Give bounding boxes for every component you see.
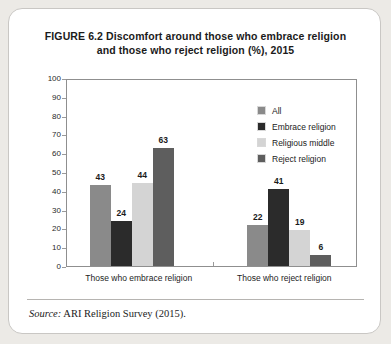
y-axis-tick-label: 50: [35, 169, 61, 177]
bar: [289, 230, 310, 266]
y-axis-tick-label: 10: [35, 244, 61, 252]
source-label: Source:: [29, 308, 61, 319]
source-note: Source: ARI Religion Survey (2015).: [29, 307, 186, 320]
y-axis-tick-label: 40: [35, 188, 61, 196]
figure-card: FIGURE 6.2 Discomfort around those who e…: [8, 8, 381, 334]
source-divider: [27, 299, 364, 300]
legend-item[interactable]: Embrace religion: [257, 119, 377, 134]
bar-value-label: 22: [247, 213, 268, 222]
x-axis-category-label: Those who embrace religion: [66, 273, 212, 283]
source-text: ARI Religion Survey (2015).: [61, 308, 186, 319]
y-axis-tick-label: 0: [35, 263, 61, 271]
figure-title-line-1: FIGURE 6.2 Discomfort around those who e…: [29, 29, 362, 43]
bar: [153, 148, 174, 266]
bar-value-label: 63: [153, 136, 174, 145]
y-axis-tick-label: 60: [35, 150, 61, 158]
legend-label: Reject religion: [272, 154, 326, 164]
bar: [132, 183, 153, 266]
bar: [310, 255, 331, 266]
y-axis-tick-label: 100: [35, 75, 61, 83]
y-axis-tick-mark: [62, 267, 66, 268]
y-axis-tick-label: 20: [35, 225, 61, 233]
legend-item[interactable]: Religious middle: [257, 135, 377, 150]
legend-swatch-icon: [257, 106, 266, 115]
figure-title: FIGURE 6.2 Discomfort around those who e…: [29, 29, 362, 57]
chart-legend: AllEmbrace religionReligious middleRejec…: [257, 103, 377, 167]
legend-item[interactable]: Reject religion: [257, 151, 377, 166]
x-axis-category-labels: Those who embrace religionThose who reje…: [66, 273, 357, 289]
bar: [90, 185, 111, 266]
legend-swatch-icon: [257, 138, 266, 147]
legend-item[interactable]: All: [257, 103, 377, 118]
bar-value-label: 6: [310, 243, 331, 252]
x-axis-category-label: Those who reject religion: [212, 273, 358, 283]
bar: [268, 189, 289, 266]
bar-value-label: 43: [90, 173, 111, 182]
y-axis-tick-labels: 0102030405060708090100: [35, 79, 61, 267]
y-axis-tick-label: 80: [35, 113, 61, 121]
figure-title-line-2: and those who reject religion (%), 2015: [29, 43, 362, 57]
bar-value-label: 24: [111, 209, 132, 218]
legend-swatch-icon: [257, 122, 266, 131]
legend-label: Religious middle: [272, 138, 334, 148]
y-axis-tick-label: 70: [35, 131, 61, 139]
bar: [111, 221, 132, 266]
y-axis-tick-label: 30: [35, 207, 61, 215]
legend-swatch-icon: [257, 154, 266, 163]
legend-label: Embrace religion: [272, 122, 336, 132]
group-separator-tick: [213, 262, 214, 266]
y-axis-tick-label: 90: [35, 94, 61, 102]
bar-value-label: 19: [289, 218, 310, 227]
bar-value-label: 44: [132, 171, 153, 180]
bar-value-label: 41: [268, 177, 289, 186]
legend-label: All: [272, 106, 281, 116]
bar: [247, 225, 268, 266]
chart-region: 0102030405060708090100 432444632241196 T…: [35, 79, 357, 289]
